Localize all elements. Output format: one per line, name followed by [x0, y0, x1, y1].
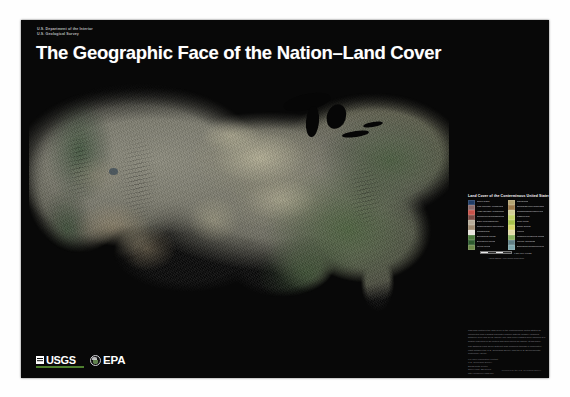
page-background: U.S. Department of the Interior U.S. Geo…: [0, 0, 570, 397]
legend-item: Row crops: [508, 220, 544, 224]
legend-item: Commercial/industrial/transportation: [468, 215, 504, 219]
legend-columns: Open waterLow intensity residentialHigh …: [468, 201, 544, 249]
usgs-accent-rule: [36, 366, 84, 367]
map-scale-bar: 0 250 500 MILES: [468, 251, 544, 254]
legend-item: Quarries/strip mines/gravel pits: [468, 225, 504, 229]
poster-credit: Produced by the U.S. Geological Survey: [502, 369, 541, 371]
legend-item-label: Row crops: [517, 221, 529, 224]
legend-item-label: Low intensity residential: [477, 206, 504, 209]
legend-item-label: Evergreen forest: [477, 241, 495, 244]
legend-item: Small grains: [508, 225, 544, 229]
legend-item: Transitional: [468, 230, 504, 234]
scale-bar-label: 0 250 500 MILES: [514, 252, 532, 254]
legend-item-label: Urban/recreational grasses: [517, 236, 544, 239]
legend-column-left: Open waterLow intensity residentialHigh …: [468, 201, 504, 249]
legend-item: Orchards/vineyards/other: [508, 205, 544, 209]
legend-item: Open water: [468, 201, 504, 205]
legend-item-label: Deciduous forest: [477, 236, 496, 239]
agency-survey: U.S. Geological Survey: [37, 32, 93, 37]
contact-website[interactable]: http://landcover.usgs.gov: [468, 372, 546, 376]
legend-column-right: ShrublandOrchards/vineyards/otherGrassla…: [508, 201, 544, 249]
legend-item-label: Bare rock/sand/clay: [477, 221, 499, 224]
legend-item-label: Fallow: [517, 231, 524, 234]
scale-bar-graphic: [480, 251, 512, 254]
epa-seal-icon: [90, 355, 101, 366]
legend-item: Emergent herbaceous wetlands: [508, 245, 544, 249]
legend-color-swatch: [508, 245, 515, 250]
legend-item: Low intensity residential: [468, 205, 504, 209]
legend-title: Land Cover of the Conterminous United St…: [468, 194, 544, 198]
description-paragraph-2: The National Land Cover Data set was pro…: [468, 345, 546, 356]
legend-item-label: Quarries/strip mines/gravel pits: [477, 226, 504, 229]
legend-color-swatch: [468, 245, 475, 250]
legend-item-label: Transitional: [477, 231, 490, 234]
epa-wordmark: EPA: [103, 355, 125, 367]
legend-item-label: Commercial/industrial/transportation: [477, 216, 504, 219]
map-projection-note: Albers Equal-Area Conic Projection: [468, 257, 544, 259]
legend-item-label: Emergent herbaceous wetlands: [517, 246, 544, 249]
agency-attribution: U.S. Department of the Interior U.S. Geo…: [37, 27, 93, 37]
agency-logos: USGS EPA: [36, 355, 125, 367]
epa-logo: EPA: [90, 355, 126, 367]
usgs-mark-icon: [36, 356, 44, 364]
united-states-land-cover-raster: [29, 77, 449, 322]
legend-item-label: Orchards/vineyards/other: [517, 206, 544, 209]
legend-item: Evergreen forest: [468, 240, 504, 244]
legend-item: Urban/recreational grasses: [508, 235, 544, 239]
legend-item: Shrubland: [508, 201, 544, 205]
great-salt-lake: [109, 168, 118, 175]
legend-item: Grasslands/herbaceous: [508, 210, 544, 214]
raster-texture-layer: [29, 77, 449, 322]
description-paragraph-1: This map portrays the land cover of the …: [468, 329, 546, 343]
legend-item-label: Mixed forest: [477, 246, 491, 249]
legend-item-label: Small grains: [517, 226, 531, 229]
legend-item: Pasture/hay: [508, 215, 544, 219]
legend-item: Bare rock/sand/clay: [468, 220, 504, 224]
land-cover-poster: U.S. Department of the Interior U.S. Geo…: [21, 20, 549, 378]
contact-block: For more information contact: U.S. Geolo…: [468, 358, 546, 376]
legend-item-label: Shrubland: [517, 201, 528, 204]
legend-item: High intensity residential: [468, 210, 504, 214]
legend-item-label: High intensity residential: [477, 211, 504, 214]
legend-item: Deciduous forest: [468, 235, 504, 239]
legend-item: Mixed forest: [468, 245, 504, 249]
legend-item-label: Woody wetlands: [517, 241, 535, 244]
legend-item-label: Pasture/hay: [517, 216, 530, 219]
map-legend: Land Cover of the Conterminous United St…: [468, 194, 544, 259]
usgs-logo: USGS: [36, 355, 76, 366]
legend-item: Fallow: [508, 230, 544, 234]
legend-item: Woody wetlands: [508, 240, 544, 244]
poster-title: The Geographic Face of the Nation–Land C…: [36, 42, 441, 64]
usgs-wordmark: USGS: [46, 355, 76, 366]
legend-item-label: Grasslands/herbaceous: [517, 211, 543, 214]
legend-item-label: Open water: [477, 201, 490, 204]
